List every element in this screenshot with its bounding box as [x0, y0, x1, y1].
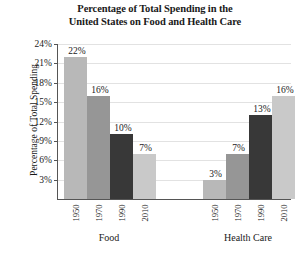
y-tick-mark: [54, 83, 58, 84]
x-tick-label-year: 2010: [279, 205, 289, 222]
bar: 16%2010: [272, 96, 295, 199]
y-tick-mark: [54, 141, 58, 142]
y-tick-label: 24%: [35, 39, 52, 49]
bar-value-label: 16%: [276, 85, 293, 95]
group-label: Health Care: [202, 232, 294, 243]
x-tick-label-year: 1970: [233, 205, 243, 222]
y-tick-label: 18%: [35, 78, 52, 88]
bar: 7%2010: [133, 154, 156, 199]
chart-title-line-1: Percentage of Total Spending in the: [30, 3, 280, 16]
bar: 22%1950: [64, 57, 87, 199]
bar: 3%1950: [203, 180, 226, 199]
y-tick-label: 21%: [35, 58, 52, 68]
bar-value-label: 16%: [91, 85, 108, 95]
y-tick-label: 3%: [39, 175, 52, 185]
y-tick-mark: [54, 122, 58, 123]
y-tick-label: 9%: [39, 136, 52, 146]
bar-value-label: 13%: [253, 104, 270, 114]
y-tick-mark: [54, 180, 58, 181]
gridline: [58, 83, 291, 84]
y-tick-label: 6%: [39, 155, 52, 165]
y-tick-label: 12%: [35, 117, 52, 127]
bar-value-label: 10%: [114, 123, 131, 133]
x-tick-label-year: 2010: [140, 205, 150, 222]
y-tick-mark: [54, 44, 58, 45]
bar-value-label: 7%: [232, 143, 245, 153]
x-tick-label-year: 1970: [94, 205, 104, 222]
chart-title-line-2: United States on Food and Health Care: [30, 16, 280, 29]
gridline: [58, 63, 291, 64]
bar-value-label: 7%: [139, 143, 152, 153]
x-tick-label-year: 1990: [256, 205, 266, 222]
x-tick-label-year: 1950: [71, 205, 81, 222]
y-tick-mark: [54, 63, 58, 64]
bar-value-label: 3%: [209, 169, 222, 179]
y-tick-label: 15%: [35, 97, 52, 107]
bar-chart: Percentage of Total Spending in the Unit…: [0, 0, 295, 257]
y-tick-mark: [54, 102, 58, 103]
bar: 7%1970: [226, 154, 249, 199]
chart-title: Percentage of Total Spending in the Unit…: [30, 3, 280, 28]
y-tick-mark: [54, 160, 58, 161]
bar: 13%1990: [249, 115, 272, 199]
plot-area: 24%21%18%15%12%9%6%3% 22%195016%197010%1…: [57, 44, 291, 200]
group-label: Food: [63, 232, 155, 243]
bar: 16%1970: [87, 96, 110, 199]
gridline: [58, 44, 291, 45]
x-tick-label-year: 1990: [117, 205, 127, 222]
bar: 10%1990: [110, 134, 133, 199]
bar-value-label: 22%: [68, 46, 85, 56]
x-tick-label-year: 1950: [210, 205, 220, 222]
